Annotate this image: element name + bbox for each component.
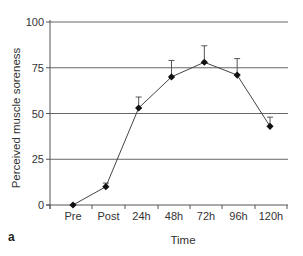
gridlines (50, 22, 288, 159)
x-tick-label: 72h (197, 210, 215, 222)
y-tick-label: 0 (38, 199, 44, 211)
line-chart: 0255075100 PrePost24h48h72h96h120h Perce… (0, 0, 303, 256)
x-tick-label: 24h (132, 210, 150, 222)
x-tick-label: 120h (259, 210, 283, 222)
axes (46, 20, 288, 209)
x-tick-label: 48h (165, 210, 183, 222)
x-tick-label: 96h (229, 210, 247, 222)
diamond-marker-icon (266, 123, 273, 130)
diamond-marker-icon (102, 183, 109, 190)
diamond-marker-icon (234, 71, 241, 78)
data-series (69, 46, 273, 209)
y-axis-ticks: 0255075100 (26, 16, 50, 211)
diamond-marker-icon (201, 59, 208, 66)
x-tick-label: Pre (64, 210, 81, 222)
diamond-marker-icon (69, 201, 76, 208)
x-axis-ticks: PrePost24h48h72h96h120h (50, 205, 287, 222)
y-tick-label: 100 (26, 16, 44, 28)
y-tick-label: 50 (32, 108, 44, 120)
series-line (73, 62, 270, 205)
panel-label: a (8, 230, 15, 244)
x-axis-label: Time (170, 234, 195, 246)
y-tick-label: 25 (32, 153, 44, 165)
y-tick-label: 75 (32, 62, 44, 74)
y-axis-label: Perceived muscle soreness (10, 47, 22, 188)
x-tick-label: Post (97, 210, 119, 222)
